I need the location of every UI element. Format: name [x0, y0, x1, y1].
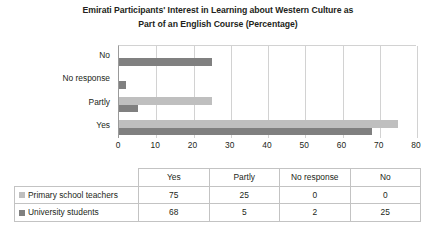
category-label-yes: Yes — [96, 114, 110, 138]
x-tick-label-10: 10 — [151, 140, 160, 150]
x-axis-tick-labels: 01020304050607080 — [118, 140, 416, 156]
plot-area — [118, 45, 416, 138]
chart-figure: Emirati Participants' Interest in Learni… — [0, 0, 434, 234]
table-cell: 68 — [139, 204, 210, 222]
bar — [119, 120, 398, 128]
legend-swatch-icon — [19, 210, 25, 216]
x-tick-label-20: 20 — [188, 140, 197, 150]
table-cell: 25 — [209, 186, 280, 204]
table-row: Primary school teachers752500 — [15, 186, 421, 204]
bar — [119, 97, 212, 105]
series-name: Primary school teachers — [28, 190, 118, 200]
x-tick-label-80: 80 — [411, 140, 420, 150]
table-column-header: No response — [280, 169, 351, 187]
chart-title: Emirati Participants' Interest in Learni… — [28, 4, 408, 31]
x-tick-label-40: 40 — [262, 140, 271, 150]
gridline-80 — [417, 46, 418, 138]
table-cell: 2 — [280, 204, 351, 222]
table-column-header: No — [350, 169, 421, 187]
table-cell: 75 — [139, 186, 210, 204]
bar — [119, 105, 138, 113]
table-cell: 0 — [350, 186, 421, 204]
table-row-label: University students — [15, 204, 139, 222]
table-row-label: Primary school teachers — [15, 186, 139, 204]
category-label-no-response: No response — [63, 67, 111, 91]
table-row: University students685225 — [15, 204, 421, 222]
bar-group — [119, 116, 416, 139]
category-label-no: No — [99, 44, 110, 68]
x-tick-label-0: 0 — [116, 140, 121, 150]
table-column-header: Yes — [139, 169, 210, 187]
legend-swatch-icon — [19, 192, 25, 198]
chart-plot-region: No No response Partly Yes 01020304050607… — [0, 44, 434, 162]
table-cell: 0 — [280, 186, 351, 204]
category-axis-labels: No No response Partly Yes — [18, 44, 114, 138]
bar — [119, 81, 126, 89]
bar-group — [119, 46, 416, 69]
bar-group — [119, 69, 416, 92]
data-table: YesPartlyNo responseNoPrimary school tea… — [14, 168, 421, 222]
series-name: University students — [28, 207, 99, 217]
table-column-header: Partly — [209, 169, 280, 187]
x-tick-label-70: 70 — [374, 140, 383, 150]
chart-title-line-2: Part of an English Course (Percentage) — [28, 18, 408, 32]
table-cell: 25 — [350, 204, 421, 222]
bar-group — [119, 93, 416, 116]
x-tick-label-30: 30 — [225, 140, 234, 150]
table-corner-cell — [15, 169, 139, 187]
bar — [119, 128, 372, 136]
x-tick-label-60: 60 — [337, 140, 346, 150]
category-label-partly: Partly — [89, 91, 110, 115]
table-header-row: YesPartlyNo responseNo — [15, 169, 421, 187]
chart-title-line-1: Emirati Participants' Interest in Learni… — [28, 4, 408, 18]
x-tick-label-50: 50 — [300, 140, 309, 150]
table-cell: 5 — [209, 204, 280, 222]
bar — [119, 58, 212, 66]
